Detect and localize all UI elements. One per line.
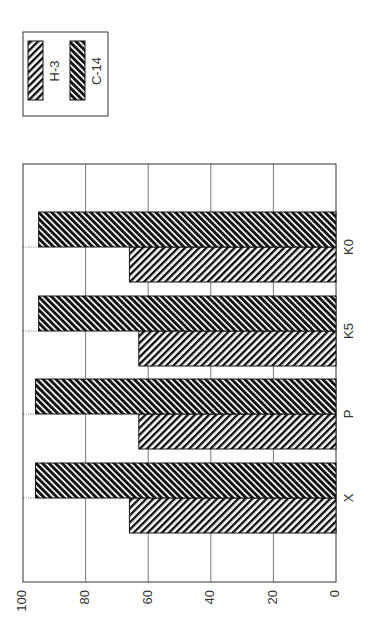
legend-label: H-3 <box>47 61 62 82</box>
bar-chart: 020406080100XPK5K0 H-3C-14 <box>0 0 371 629</box>
bar-h3-p <box>139 414 336 449</box>
y-tick-label: 80 <box>77 590 92 604</box>
category-label: K0 <box>341 239 356 255</box>
y-tick-label: 100 <box>14 590 29 612</box>
bar-c14-k0 <box>39 212 336 247</box>
bar-h3-x <box>129 498 336 533</box>
category-label: K5 <box>341 323 356 339</box>
bar-h3-k0 <box>129 247 336 282</box>
category-label: X <box>341 493 356 502</box>
bar-c14-p <box>36 379 336 414</box>
y-tick-label: 60 <box>140 590 155 604</box>
bar-h3-k5 <box>139 331 336 366</box>
plot-area: 020406080100XPK5K0 <box>14 164 356 612</box>
bar-c14-x <box>36 463 336 498</box>
y-tick-label: 0 <box>327 590 342 597</box>
y-tick-label: 40 <box>202 590 217 604</box>
legend-swatch-h-3 <box>28 41 43 100</box>
legend-label: C-14 <box>89 57 104 85</box>
y-tick-label: 20 <box>265 590 280 604</box>
legend: H-3C-14 <box>23 32 108 116</box>
legend-swatch-c-14 <box>70 41 85 100</box>
bar-c14-k5 <box>39 296 336 331</box>
category-label: P <box>341 410 356 419</box>
